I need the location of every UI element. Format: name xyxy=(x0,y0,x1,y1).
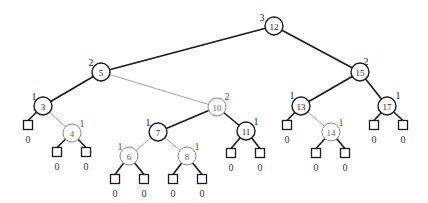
node-black-height: 1 xyxy=(146,117,151,128)
nil-leaf: 0 xyxy=(53,148,62,172)
nil-leaf-square-icon xyxy=(283,121,292,130)
tree-node-13: 131 xyxy=(290,90,311,116)
nil-leaf-square-icon xyxy=(399,121,408,130)
leaf-black-height: 0 xyxy=(171,188,176,199)
node-black-height: 2 xyxy=(225,91,230,102)
nil-leaf-square-icon xyxy=(53,148,62,157)
nil-leaf: 0 xyxy=(82,148,91,172)
tree-edge xyxy=(274,26,360,72)
nil-leaf: 0 xyxy=(370,121,379,145)
nil-leaf-square-icon xyxy=(341,149,350,158)
node-black-height: 1 xyxy=(254,116,259,127)
node-black-height: 1 xyxy=(290,90,295,101)
tree-node-10: 102 xyxy=(208,91,230,117)
nil-leaf-square-icon xyxy=(312,149,321,158)
nil-leaf: 0 xyxy=(399,121,408,145)
node-black-height: 2 xyxy=(89,57,94,68)
node-key: 6 xyxy=(127,152,132,162)
leaf-black-height: 0 xyxy=(113,188,118,199)
node-key: 15 xyxy=(356,68,366,78)
nil-leaf: 0 xyxy=(227,149,236,173)
nil-leaf: 0 xyxy=(256,149,265,173)
tree-node-3: 31 xyxy=(32,91,53,116)
node-key: 3 xyxy=(41,102,46,112)
node-black-height: 1 xyxy=(339,117,344,128)
leaf-black-height: 0 xyxy=(372,134,377,145)
node-key: 11 xyxy=(242,127,251,137)
node-key: 14 xyxy=(327,128,337,138)
nil-leaf-square-icon xyxy=(82,148,91,157)
node-black-height: 2 xyxy=(364,56,369,67)
node-black-height: 1 xyxy=(80,118,85,129)
node-key: 10 xyxy=(213,103,223,113)
node-black-height: 1 xyxy=(118,141,123,152)
node-black-height: 1 xyxy=(32,91,37,102)
nil-leaf: 0 xyxy=(24,121,33,145)
nil-leaf-square-icon xyxy=(140,175,149,184)
node-key: 5 xyxy=(99,68,104,78)
tree-node-11: 111 xyxy=(237,116,259,141)
node-key: 7 xyxy=(156,128,161,138)
tree-edge xyxy=(43,72,101,106)
nil-leaf-square-icon xyxy=(111,175,120,184)
nil-leaf-square-icon xyxy=(198,175,207,184)
node-black-height: 3 xyxy=(260,12,265,23)
leaf-black-height: 0 xyxy=(258,162,263,173)
tree-node-12: 123 xyxy=(260,12,284,36)
nil-leaf: 0 xyxy=(312,149,321,173)
node-key: 13 xyxy=(297,102,307,112)
node-key: 17 xyxy=(383,102,393,112)
nil-leaf-square-icon xyxy=(227,149,236,158)
leaf-black-height: 0 xyxy=(285,134,290,145)
leaf-black-height: 0 xyxy=(401,134,406,145)
leaf-black-height: 0 xyxy=(343,162,348,173)
node-black-height: 1 xyxy=(396,90,401,101)
nil-leaf-square-icon xyxy=(24,121,33,130)
nil-leaf: 0 xyxy=(140,175,149,199)
nil-leaf: 0 xyxy=(341,149,350,173)
node-key: 12 xyxy=(270,22,279,32)
nil-leaf: 0 xyxy=(198,175,207,199)
tree-node-6: 61 xyxy=(118,141,139,166)
leaf-black-height: 0 xyxy=(84,161,89,172)
tree-edge xyxy=(101,26,274,72)
leaf-black-height: 0 xyxy=(26,134,31,145)
tree-node-17: 171 xyxy=(378,90,401,116)
tree-diagram: 00000000000000 1235215231102131171417111… xyxy=(0,0,428,203)
nil-leaf-square-icon xyxy=(256,149,265,158)
tree-edge xyxy=(101,72,217,107)
leaf-black-height: 0 xyxy=(229,162,234,173)
nil-leaf: 0 xyxy=(283,121,292,145)
leaf-black-height: 0 xyxy=(200,188,205,199)
nil-leaf: 0 xyxy=(111,175,120,199)
tree-nodes: 123521523110213117141711111416181 xyxy=(32,12,401,166)
nil-leaf-square-icon xyxy=(370,121,379,130)
leaf-black-height: 0 xyxy=(142,188,147,199)
tree-node-4: 41 xyxy=(63,118,85,143)
node-key: 8 xyxy=(185,152,190,162)
tree-node-7: 71 xyxy=(146,117,168,142)
node-black-height: 1 xyxy=(195,141,200,152)
node-key: 4 xyxy=(70,129,75,139)
tree-edge xyxy=(301,72,360,106)
nil-leaf-square-icon xyxy=(169,175,178,184)
tree-node-15: 152 xyxy=(351,56,369,82)
tree-node-14: 141 xyxy=(322,117,344,142)
leaf-black-height: 0 xyxy=(55,161,60,172)
nil-leaf: 0 xyxy=(169,175,178,199)
tree-node-8: 81 xyxy=(178,141,200,166)
leaf-black-height: 0 xyxy=(314,162,319,173)
